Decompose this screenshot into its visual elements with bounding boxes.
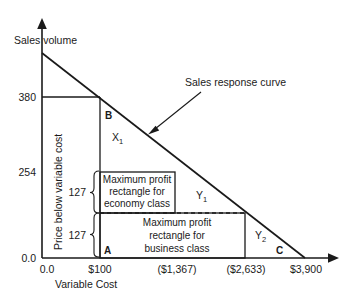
brace-business xyxy=(90,213,99,257)
x-axis-arrow-icon xyxy=(328,253,339,263)
brace-economy-value: 127 xyxy=(68,186,86,198)
y-tick-0: 0.0 xyxy=(21,252,36,264)
segment-y2-base: Y xyxy=(255,229,262,241)
chart-canvas: Sales volume Variable Cost Price below v… xyxy=(0,0,359,302)
segment-y1-sub: 1 xyxy=(203,195,207,204)
y-axis-title: Sales volume xyxy=(14,34,77,46)
brace-economy xyxy=(90,171,99,213)
segment-y2-sub: 2 xyxy=(262,235,266,244)
point-c-label: C xyxy=(276,245,283,256)
x-tick-100: $100 xyxy=(88,263,112,275)
segment-y1-label: Y1 xyxy=(196,189,207,204)
y-axis-arrow-icon xyxy=(37,18,47,29)
segment-y2-label: Y2 xyxy=(255,229,266,244)
economy-rect-line-1: Maximum profit xyxy=(103,174,172,185)
segment-x1-base: X xyxy=(112,131,119,143)
economy-rect-line-3: economy class xyxy=(104,198,170,209)
y-tick-254: 254 xyxy=(18,166,36,178)
sales-response-chart: Sales volume Variable Cost Price below v… xyxy=(0,0,359,302)
economy-rect-line-2: rectangle for xyxy=(109,186,165,197)
segment-x1-sub: 1 xyxy=(119,137,123,146)
segment-y1-base: Y xyxy=(196,189,203,201)
business-rect-line-3: business class xyxy=(144,243,209,254)
x-tick-2633: ($2,633) xyxy=(226,263,265,275)
business-rect-line-1: Maximum profit xyxy=(143,217,212,228)
x-tick-0: 0.0 xyxy=(40,263,55,275)
segment-x1-label: X1 xyxy=(112,131,123,146)
price-below-variable-cost-label: Price below variable cost xyxy=(52,134,64,250)
point-b-label: B xyxy=(105,110,112,121)
y-tick-380: 380 xyxy=(18,91,36,103)
brace-business-value: 127 xyxy=(68,229,86,241)
business-rect-line-2: rectangle for xyxy=(149,230,205,241)
curve-callout-label: Sales response curve xyxy=(185,76,286,88)
curve-callout-leader xyxy=(155,92,201,129)
x-tick-1367: ($1,367) xyxy=(157,263,196,275)
point-a-label: A xyxy=(104,245,111,256)
x-axis-title: Variable Cost xyxy=(55,278,117,290)
x-tick-3900: $3,900 xyxy=(290,263,322,275)
